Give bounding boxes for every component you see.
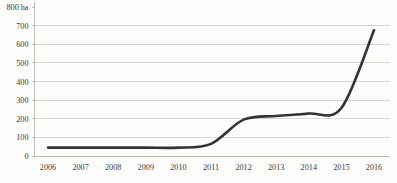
x-axis-tick-label: 2016 (366, 163, 382, 172)
x-axis-tick-label: 2015 (333, 163, 349, 172)
y-axis-tick-label: 400 (16, 78, 28, 87)
y-axis-tick-label: 600 (16, 40, 28, 49)
x-axis-tick-label: 2013 (268, 163, 284, 172)
axis-lines (32, 2, 391, 156)
series-line (48, 30, 374, 148)
y-axis-tick-labels: 0100200300400500600700800 ha (6, 3, 28, 161)
y-axis-tick-label: 100 (16, 133, 28, 142)
x-axis-tick-label: 2011 (203, 163, 219, 172)
x-axis-tick-label: 2008 (105, 163, 121, 172)
x-axis-tick-label: 2010 (170, 163, 186, 172)
y-axis-tick-label: 0 (24, 152, 28, 161)
y-axis-tick-label: 300 (16, 96, 28, 105)
x-axis-tick-labels: 2006200720082009201020112012201320142015… (40, 163, 382, 172)
line-chart: 0100200300400500600700800 ha 20062007200… (0, 0, 397, 183)
x-axis-tick-label: 2006 (40, 163, 56, 172)
x-axis-tick-label: 2009 (138, 163, 154, 172)
gridlines (35, 26, 391, 156)
x-axis-tick-label: 2012 (235, 163, 251, 172)
y-axis-tick-label: 200 (16, 115, 28, 124)
data-series (48, 30, 374, 148)
y-axis-tick-label: 800 ha (6, 3, 28, 12)
y-axis-tick-label: 500 (16, 59, 28, 68)
x-axis-tick-label: 2007 (72, 163, 88, 172)
chart-canvas: 0100200300400500600700800 ha 20062007200… (0, 0, 397, 183)
x-axis-tick-label: 2014 (301, 163, 317, 172)
y-axis-tick-label: 700 (16, 22, 28, 31)
